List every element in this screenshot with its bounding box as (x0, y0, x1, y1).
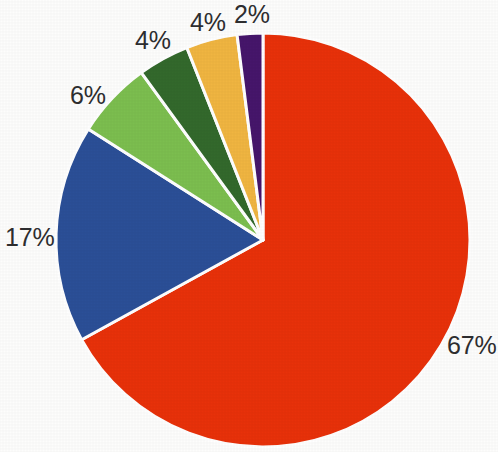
pie-slice-label-0: 67% (447, 333, 496, 358)
pie-chart: 67% 17% 6% 4% 4% 2% (0, 0, 498, 452)
pie-slice-label-1: 17% (5, 225, 54, 250)
pie-slice-label-3: 4% (135, 28, 171, 53)
pie-slice-group (56, 33, 470, 447)
pie-slice-label-2: 6% (70, 83, 106, 108)
pie-slice-label-4: 4% (190, 10, 226, 35)
pie-slice-label-5: 2% (234, 2, 270, 27)
pie-chart-svg (0, 0, 498, 452)
